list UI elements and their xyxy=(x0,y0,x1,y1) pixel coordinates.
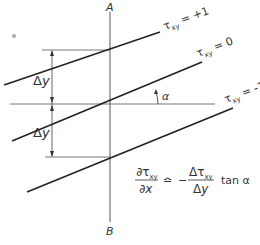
derivative-formula: ∂τxy ∂x ≏ − Δτxy Δy tan α xyxy=(135,165,250,196)
shear-stress-diagram: A B Δy Δy τxy = +1 τxy = 0 τxy = -1 α ∂τ… xyxy=(0,0,260,245)
axis-top-label: A xyxy=(105,1,114,14)
tau-zero-label: τxy = 0 xyxy=(195,35,236,62)
axis-bottom-label: B xyxy=(106,225,114,238)
delta-y-dimension xyxy=(50,50,54,157)
angle-label: α xyxy=(162,90,170,103)
tau-minus-one-line xyxy=(27,108,233,192)
svg-text:τxy = -1: τxy = -1 xyxy=(223,79,260,107)
svg-text:tan α: tan α xyxy=(221,174,250,187)
svg-text:≏: ≏ xyxy=(163,174,172,187)
svg-text:−: − xyxy=(178,174,187,187)
tau-plus-one-line xyxy=(4,32,160,85)
svg-text:τxy = +1: τxy = +1 xyxy=(162,4,212,34)
angle-arrowhead xyxy=(154,89,158,94)
svg-text:Δτxy: Δτxy xyxy=(189,165,213,181)
svg-text:τxy = 0: τxy = 0 xyxy=(195,35,236,62)
tau-minus-one-label: τxy = -1 xyxy=(223,79,260,107)
tau-plus-one-label: τxy = +1 xyxy=(162,4,212,34)
delta-y-label-bottom: Δy xyxy=(33,125,50,140)
svg-text:∂τxy: ∂τxy xyxy=(136,165,158,181)
delta-y-label-top: Δy xyxy=(33,73,50,88)
svg-text:∂x: ∂x xyxy=(139,182,153,196)
svg-text:Δy: Δy xyxy=(193,182,209,196)
stray-dot xyxy=(12,34,16,38)
